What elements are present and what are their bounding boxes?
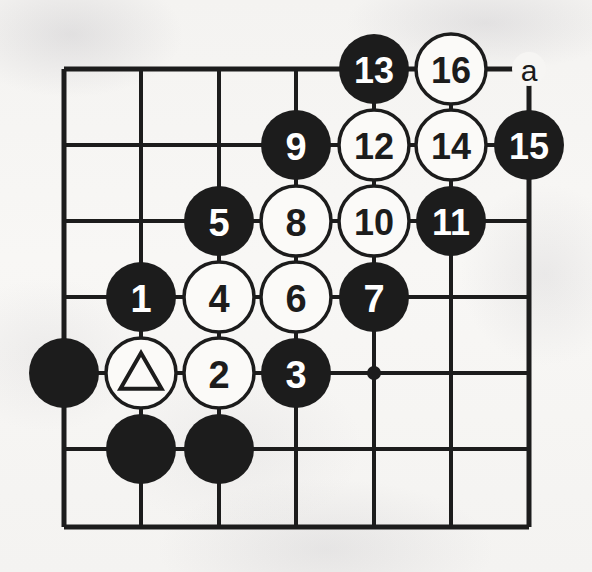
stone-move-number: 16 xyxy=(431,50,471,91)
stone-disc-black xyxy=(29,338,99,408)
stone-move-number: 4 xyxy=(208,278,229,320)
stone-14: 14 xyxy=(416,110,486,180)
stone-1: 1 xyxy=(106,262,176,332)
star-points xyxy=(367,366,381,380)
stone-move-number: 2 xyxy=(208,354,229,396)
stone-move-number: 3 xyxy=(285,354,306,396)
stone-10: 10 xyxy=(339,186,409,256)
stone-13: 13 xyxy=(339,34,409,104)
stone-9: 9 xyxy=(261,110,331,180)
stone-move-number: 6 xyxy=(285,278,306,320)
stone-11: 11 xyxy=(416,186,486,256)
go-board-diagram: 13169121415581011146723 a xyxy=(0,0,592,572)
stone-disc-black xyxy=(184,414,254,484)
stone-6: 6 xyxy=(261,262,331,332)
stone-15: 15 xyxy=(494,110,564,180)
stone-move-number: 13 xyxy=(354,50,394,91)
stone-move-number: 14 xyxy=(431,126,471,167)
stone-move-number: 9 xyxy=(285,126,306,168)
stone-move-number: 8 xyxy=(285,202,306,244)
stone-move-number: 11 xyxy=(432,202,470,243)
stone-move-number: 1 xyxy=(130,278,151,320)
go-board-svg: 13169121415581011146723 a xyxy=(0,0,592,572)
stone-black-c6 xyxy=(184,414,254,484)
stone-white-triangle xyxy=(106,338,176,408)
stone-move-number: 7 xyxy=(363,278,384,320)
stone-move-number: 10 xyxy=(354,202,394,243)
point-label-text: a xyxy=(521,54,538,87)
stone-7: 7 xyxy=(339,262,409,332)
stone-black-a1 xyxy=(29,338,99,408)
coordinate-labels: a xyxy=(512,52,546,87)
stone-disc-black xyxy=(106,414,176,484)
star-point-center xyxy=(367,366,381,380)
stone-black-b6 xyxy=(106,414,176,484)
point-label-a: a xyxy=(512,52,546,87)
stone-3: 3 xyxy=(261,338,331,408)
stone-2: 2 xyxy=(184,338,254,408)
stone-16: 16 xyxy=(416,34,486,104)
stone-12: 12 xyxy=(339,110,409,180)
stone-5: 5 xyxy=(184,186,254,256)
stone-move-number: 12 xyxy=(354,126,394,167)
stone-move-number: 15 xyxy=(509,126,549,167)
stone-8: 8 xyxy=(261,186,331,256)
stone-move-number: 5 xyxy=(208,202,229,244)
stone-disc-white xyxy=(106,338,176,408)
stone-4: 4 xyxy=(184,262,254,332)
